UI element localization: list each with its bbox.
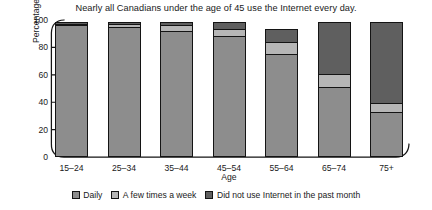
y-tick-60: 60 (38, 70, 48, 80)
bar-segment[interactable] (318, 87, 351, 157)
bar-3[interactable]: 35–44 (160, 20, 193, 157)
bar-4[interactable]: 45–54 (213, 20, 246, 157)
bar-segment[interactable] (213, 36, 246, 157)
bar-2[interactable]: 25–34 (108, 20, 141, 157)
chart-container: Nearly all Canadians under the age of 45… (0, 0, 432, 210)
bar-5[interactable]: 55–64 (265, 20, 298, 157)
bar-segment[interactable] (318, 74, 351, 88)
bar-segment[interactable] (265, 42, 298, 56)
chart-legend: DailyA few times a weekDid not use Inter… (0, 190, 432, 200)
legend-swatch-icon (205, 191, 213, 199)
y-tick-40: 40 (38, 97, 48, 107)
legend-label: Did not use Internet in the past month (217, 190, 360, 200)
bar-segment[interactable] (265, 54, 298, 157)
y-tick-80: 80 (38, 42, 48, 52)
bar-6[interactable]: 65–74 (318, 20, 351, 157)
bar-segment[interactable] (160, 31, 193, 157)
bar-group: 15–2425–3435–4445–5455–6465–7475+ (55, 20, 403, 157)
bar-segment[interactable] (370, 112, 403, 157)
y-axis-label: Percentage (31, 0, 41, 66)
bar-segment[interactable] (370, 22, 403, 104)
legend-label: A few times a week (123, 190, 197, 200)
bar-segment[interactable] (265, 29, 298, 43)
bar-segment[interactable] (108, 27, 141, 157)
bar-1[interactable]: 15–24 (55, 20, 88, 157)
legend-swatch-icon (72, 191, 80, 199)
legend-item-1[interactable]: Daily (72, 190, 103, 200)
x-axis-label: Age (55, 172, 403, 182)
bar-segment[interactable] (55, 25, 88, 157)
chart-title: Nearly all Canadians under the age of 45… (0, 3, 432, 13)
plot-area: Percentage 100 80 60 40 20 0 15–2425–343… (55, 20, 403, 157)
y-tick-20: 20 (38, 125, 48, 135)
y-tick-100: 100 (34, 15, 48, 25)
y-tick-0: 0 (43, 152, 48, 162)
legend-item-2[interactable]: A few times a week (111, 190, 196, 200)
legend-item-3[interactable]: Did not use Internet in the past month (205, 190, 360, 200)
bar-7[interactable]: 75+ (370, 20, 403, 157)
legend-label: Daily (83, 190, 102, 200)
bar-segment[interactable] (318, 22, 351, 75)
legend-swatch-icon (111, 191, 119, 199)
